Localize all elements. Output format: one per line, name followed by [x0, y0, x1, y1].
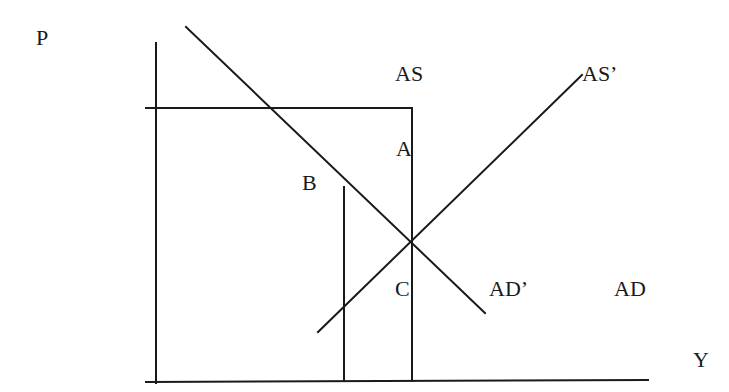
as-prime-curve	[318, 75, 582, 332]
x-axis-label: Y	[693, 349, 709, 371]
x-axis	[146, 380, 648, 382]
diagram-canvas	[0, 0, 729, 392]
ad-prime-curve	[186, 27, 485, 313]
point-a-label: A	[396, 138, 412, 160]
point-c-label: C	[395, 278, 410, 300]
as-label: AS	[395, 63, 423, 85]
ad-label: AD	[614, 278, 646, 300]
y-axis-label: P	[36, 27, 48, 49]
point-b-label: B	[302, 172, 317, 194]
as-prime-label: AS’	[582, 63, 617, 85]
ad-prime-label: AD’	[489, 278, 528, 300]
